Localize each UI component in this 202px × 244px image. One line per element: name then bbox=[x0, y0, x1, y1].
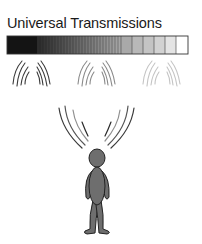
wave-group-dark bbox=[13, 61, 50, 86]
person-figure bbox=[84, 149, 109, 234]
spectrum-bar bbox=[7, 36, 188, 54]
incoming-waves bbox=[59, 106, 134, 148]
torso bbox=[89, 167, 105, 205]
transmission-illustration bbox=[0, 0, 202, 244]
wave-group-light bbox=[143, 61, 180, 86]
wave-group-medium bbox=[78, 61, 115, 86]
head bbox=[89, 149, 105, 167]
